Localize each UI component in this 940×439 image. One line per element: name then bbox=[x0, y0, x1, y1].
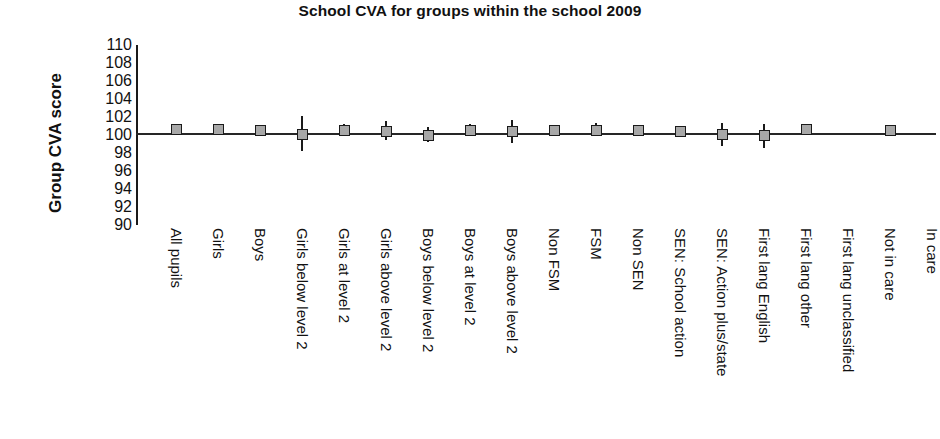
data-marker bbox=[423, 130, 434, 141]
data-marker bbox=[465, 125, 476, 136]
data-marker bbox=[339, 125, 350, 136]
data-marker bbox=[255, 125, 266, 136]
y-tick-102: 102 bbox=[86, 109, 132, 125]
y-tick-94: 94 bbox=[86, 181, 132, 197]
x-label-first-lang-other: First lang other bbox=[797, 228, 815, 438]
x-label-girls-above-level-2: Girls above level 2 bbox=[377, 228, 395, 438]
data-marker bbox=[885, 125, 896, 136]
chart-title: School CVA for groups within the school … bbox=[0, 2, 940, 20]
data-marker bbox=[591, 125, 602, 136]
y-tick-100: 100 bbox=[86, 127, 132, 143]
data-marker bbox=[717, 129, 728, 140]
y-tick-92: 92 bbox=[86, 199, 132, 215]
data-marker bbox=[381, 126, 392, 137]
data-marker bbox=[297, 129, 308, 140]
x-label-girls: Girls bbox=[209, 228, 227, 438]
x-label-fsm: FSM bbox=[587, 228, 605, 438]
x-label-boys: Boys bbox=[251, 228, 269, 438]
data-marker bbox=[759, 130, 770, 141]
data-marker bbox=[507, 126, 518, 137]
data-marker bbox=[801, 124, 812, 135]
x-axis-category-labels: All pupilsGirlsBoysGirls below level 2Gi… bbox=[136, 228, 936, 439]
x-label-in-care: In care bbox=[923, 228, 940, 438]
y-tick-96: 96 bbox=[86, 163, 132, 179]
x-label-not-in-care: Not in care bbox=[881, 228, 899, 438]
y-tick-98: 98 bbox=[86, 145, 132, 161]
y-axis-title: Group CVA score bbox=[46, 48, 72, 238]
x-label-all-pupils: All pupils bbox=[167, 228, 185, 438]
y-tick-110: 110 bbox=[86, 37, 132, 53]
data-marker bbox=[171, 124, 182, 135]
data-marker bbox=[549, 125, 560, 136]
data-marker bbox=[213, 124, 224, 135]
x-label-sen-action-plus-state: SEN: Action plus/state bbox=[713, 228, 731, 438]
y-tick-108: 108 bbox=[86, 55, 132, 71]
x-label-sen-school-action: SEN: School action bbox=[671, 228, 689, 438]
data-marker bbox=[675, 126, 686, 137]
x-label-girls-at-level-2: Girls at level 2 bbox=[335, 228, 353, 438]
plot-area bbox=[136, 45, 936, 225]
data-marker bbox=[633, 125, 644, 136]
y-axis-line bbox=[136, 45, 138, 225]
chart-root: School CVA for groups within the school … bbox=[0, 0, 940, 439]
x-label-non-sen: Non SEN bbox=[629, 228, 647, 438]
y-tick-104: 104 bbox=[86, 91, 132, 107]
x-label-boys-at-level-2: Boys at level 2 bbox=[461, 228, 479, 438]
y-tick-90: 90 bbox=[86, 217, 132, 233]
y-tick-106: 106 bbox=[86, 73, 132, 89]
x-label-girls-below-level-2: Girls below level 2 bbox=[293, 228, 311, 438]
x-label-boys-below-level-2: Boys below level 2 bbox=[419, 228, 437, 438]
y-axis-tick-labels: 1101081061041021009896949290 bbox=[86, 45, 132, 225]
x-label-non-fsm: Non FSM bbox=[545, 228, 563, 438]
x-label-first-lang-english: First lang English bbox=[755, 228, 773, 438]
x-label-first-lang-unclassified: First lang unclassified bbox=[839, 228, 857, 438]
x-label-boys-above-level-2: Boys above level 2 bbox=[503, 228, 521, 438]
